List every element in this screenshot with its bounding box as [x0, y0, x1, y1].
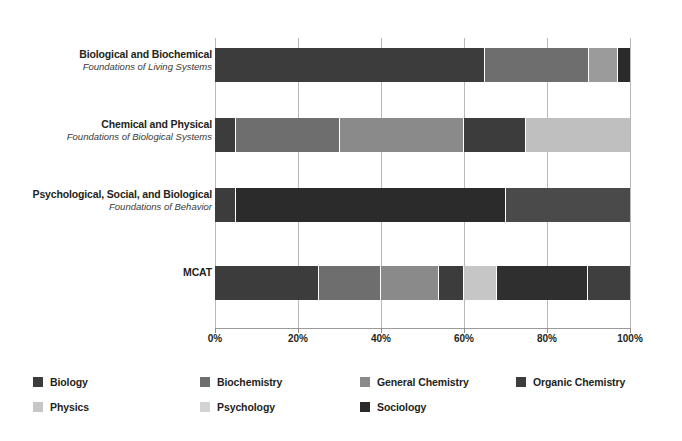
bar-segment-psychology	[236, 188, 506, 222]
category-label-main: Chemical and Physical	[7, 118, 212, 130]
plot-area	[215, 38, 630, 328]
bar-segment-biology	[215, 266, 319, 300]
legend-swatch-biology	[33, 377, 43, 387]
category-label-sub: Foundations of Biological Systems	[7, 131, 212, 142]
bar-segment-organic-chemistry	[439, 266, 464, 300]
legend-swatch-biochemistry	[200, 377, 210, 387]
bar-segment-sociology	[588, 266, 630, 300]
bar-segment-organic-chemistry	[464, 118, 526, 152]
bar-segment-physics	[526, 118, 630, 152]
legend-swatch-psychology	[200, 402, 210, 412]
category-label-3: MCAT	[7, 266, 212, 279]
legend-swatch-general-chemistry	[360, 377, 370, 387]
legend-label-organic-chemistry: Organic Chemistry	[533, 376, 625, 388]
x-tick-label: 20%	[288, 333, 308, 344]
legend-row-1: Biology Biochemistry General Chemistry O…	[33, 376, 653, 401]
legend-item-general-chemistry: General Chemistry	[360, 376, 469, 388]
legend-label-biochemistry: Biochemistry	[217, 376, 282, 388]
legend-swatch-organic-chemistry	[516, 377, 526, 387]
category-label-main: Psychological, Social, and Biological	[7, 188, 212, 200]
category-label-1: Chemical and Physical Foundations of Bio…	[7, 118, 212, 143]
x-tick-label: 60%	[454, 333, 474, 344]
bar-segment-biology	[215, 188, 236, 222]
bar-segment-general-chemistry	[381, 266, 439, 300]
bar-row	[215, 188, 630, 222]
legend-item-biochemistry: Biochemistry	[200, 376, 282, 388]
category-label-main: MCAT	[7, 266, 212, 278]
bar-segment-biology	[215, 118, 236, 152]
category-label-column: Biological and Biochemical Foundations o…	[0, 38, 212, 328]
bar-row	[215, 118, 630, 152]
x-tick-label: 40%	[371, 333, 391, 344]
bar-segment-general-chemistry	[340, 118, 465, 152]
bar-row	[215, 48, 630, 82]
legend-label-sociology: Sociology	[377, 401, 426, 413]
bar-segment-psychology	[589, 48, 618, 82]
legend-item-physics: Physics	[33, 401, 89, 413]
legend-item-psychology: Psychology	[200, 401, 275, 413]
bar-segment-biochemistry	[236, 118, 340, 152]
x-tick-label: 0%	[208, 333, 222, 344]
legend-label-psychology: Psychology	[217, 401, 275, 413]
category-label-sub: Foundations of Living Systems	[7, 61, 212, 72]
legend-label-physics: Physics	[50, 401, 89, 413]
category-label-sub: Foundations of Behavior	[7, 201, 212, 212]
bar-segment-biochemistry	[319, 266, 381, 300]
legend-item-biology: Biology	[33, 376, 88, 388]
bar-row	[215, 266, 630, 300]
stacked-bar-chart: Biological and Biochemical Foundations o…	[0, 0, 682, 441]
gridline-100%	[630, 38, 631, 328]
category-label-2: Psychological, Social, and Biological Fo…	[7, 188, 212, 213]
x-tick-label: 80%	[537, 333, 557, 344]
category-label-main: Biological and Biochemical	[7, 48, 212, 60]
legend-item-organic-chemistry: Organic Chemistry	[516, 376, 625, 388]
bar-segment-sociology	[506, 188, 631, 222]
bar-segment-psychology	[497, 266, 588, 300]
bar-segment-biology	[215, 48, 485, 82]
legend-swatch-sociology	[360, 402, 370, 412]
legend-row-2: Physics Psychology Sociology	[33, 401, 653, 426]
x-tick-label: 100%	[617, 333, 643, 344]
bar-segment-biochemistry	[485, 48, 589, 82]
legend-swatch-physics	[33, 402, 43, 412]
bar-segment-sociology	[618, 48, 630, 82]
x-axis-line	[215, 328, 630, 329]
chart-legend: Biology Biochemistry General Chemistry O…	[33, 376, 653, 426]
category-label-0: Biological and Biochemical Foundations o…	[7, 48, 212, 73]
legend-label-biology: Biology	[50, 376, 88, 388]
legend-item-sociology: Sociology	[360, 401, 426, 413]
x-axis-tick-labels: 0%20%40%60%80%100%	[215, 333, 630, 351]
legend-label-general-chemistry: General Chemistry	[377, 376, 469, 388]
bar-segment-physics	[464, 266, 497, 300]
